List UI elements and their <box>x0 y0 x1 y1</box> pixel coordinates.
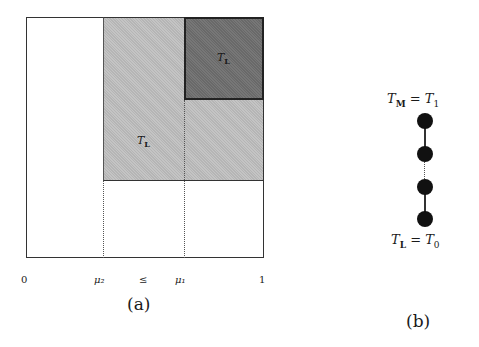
node-bottom <box>417 211 433 227</box>
node <box>417 146 433 162</box>
tick-mu2: μ₂ <box>94 274 105 285</box>
tick-leq: ≤ <box>139 274 147 285</box>
light-region-label: TL <box>137 134 150 149</box>
tick-1: 1 <box>259 274 265 285</box>
tick-mu1: μ₁ <box>175 274 186 285</box>
caption-a: (a) <box>127 294 150 314</box>
tick-0: 0 <box>21 274 27 285</box>
node-top <box>417 113 433 129</box>
caption-b: (b) <box>406 311 430 331</box>
bottom-label: TL = T0 <box>391 232 440 250</box>
mu1-dotted-line <box>184 100 185 258</box>
top-label: TM = T1 <box>387 91 439 109</box>
mu2-dotted-line <box>103 181 104 258</box>
dark-region-label: TL <box>217 51 230 66</box>
node <box>417 179 433 195</box>
